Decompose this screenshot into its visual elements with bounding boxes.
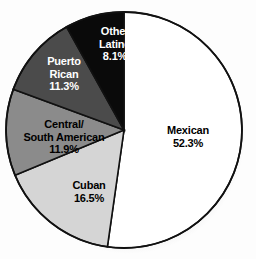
pie-slice-mexican[interactable] — [107, 12, 242, 248]
pie-chart-canvas — [0, 0, 256, 259]
pie-chart: Mexican 52.3% Cuban 16.5% Central/ South… — [0, 0, 256, 259]
pie-slices — [6, 12, 242, 248]
